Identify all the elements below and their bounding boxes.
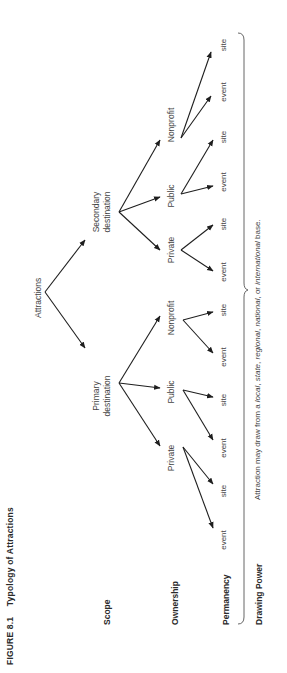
figure-title: FIGURE 8.1 Typology of Attractions bbox=[5, 507, 15, 665]
leaf-primary-private-event: event bbox=[219, 529, 228, 549]
arrow-to-secondary bbox=[45, 240, 85, 292]
node-secondary-public: Public bbox=[166, 184, 176, 208]
arrow-pp-site bbox=[183, 447, 213, 484]
svg-text:destination: destination bbox=[102, 191, 112, 232]
svg-text:FIGURE 8.1 Typology of A: FIGURE 8.1 Typology of Attractions bbox=[5, 507, 15, 665]
row-label-drawing-power: Drawing Power bbox=[254, 563, 264, 625]
arrow-secondary-to-public bbox=[119, 197, 160, 212]
arrow-primary-to-public bbox=[119, 383, 160, 388]
node-attractions: Attractions bbox=[33, 278, 43, 318]
node-secondary-destination: Secondary destination bbox=[91, 191, 112, 233]
arrow-pp-event bbox=[183, 447, 213, 528]
arrow-snp-event bbox=[181, 96, 211, 138]
arrow-primary-to-nonprofit bbox=[119, 316, 160, 383]
arrow-sp-site bbox=[181, 225, 213, 250]
arrow-spub-event bbox=[181, 186, 213, 194]
node-primary-nonprofit: Nonprofit bbox=[166, 300, 176, 335]
arrow-pnp-event bbox=[183, 320, 213, 353]
arrow-secondary-to-private bbox=[119, 212, 160, 250]
node-secondary-nonprofit: Nonprofit bbox=[166, 107, 176, 142]
leaf-secondary-public-event: event bbox=[219, 171, 228, 191]
leaf-secondary-nonprofit-site: site bbox=[219, 38, 228, 51]
figure-label: FIGURE 8.1 bbox=[5, 617, 15, 665]
leaf-secondary-private-event: event bbox=[219, 261, 228, 281]
svg-text:destination: destination bbox=[102, 375, 112, 416]
row-label-permanency: Permanency bbox=[221, 574, 231, 625]
figure-page: FIGURE 8.1 Typology of Attractions Scope… bbox=[0, 0, 287, 673]
arrow-spub-site bbox=[181, 140, 213, 194]
svg-text:Primary: Primary bbox=[91, 381, 101, 411]
leaf-secondary-nonprofit-event: event bbox=[219, 81, 228, 101]
leaf-primary-nonprofit-event: event bbox=[219, 346, 228, 366]
leaf-secondary-private-site: site bbox=[219, 217, 228, 230]
figure-title-text: Typology of Attractions bbox=[5, 507, 15, 606]
arrow-primary-to-private bbox=[119, 383, 160, 446]
brace-drawing-power bbox=[238, 33, 248, 624]
node-primary-public: Public bbox=[166, 380, 176, 404]
svg-text:Secondary: Secondary bbox=[91, 191, 101, 232]
node-secondary-private: Private bbox=[166, 237, 176, 264]
arrow-pnp-site bbox=[183, 312, 213, 320]
arrow-snp-site bbox=[181, 52, 211, 138]
node-primary-private: Private bbox=[166, 445, 176, 472]
arrow-ppub-site bbox=[183, 390, 213, 397]
arrow-to-primary bbox=[45, 292, 85, 348]
arrow-sp-event bbox=[181, 250, 213, 271]
row-label-scope: Scope bbox=[102, 599, 112, 625]
node-primary-destination: Primary destination bbox=[91, 375, 112, 416]
row-label-ownership: Ownership bbox=[170, 581, 180, 625]
leaf-secondary-public-site: site bbox=[219, 130, 228, 143]
arrow-secondary-to-nonprofit bbox=[119, 140, 160, 212]
leaf-primary-nonprofit-site: site bbox=[219, 303, 228, 316]
arrow-ppub-event bbox=[183, 390, 213, 440]
leaf-primary-public-site: site bbox=[219, 393, 228, 406]
drawing-power-note: Attraction may draw from a local, state,… bbox=[253, 219, 262, 500]
typology-diagram: FIGURE 8.1 Typology of Attractions Scope… bbox=[0, 0, 287, 673]
leaf-primary-public-event: event bbox=[219, 437, 228, 457]
leaf-primary-private-site: site bbox=[219, 484, 228, 497]
